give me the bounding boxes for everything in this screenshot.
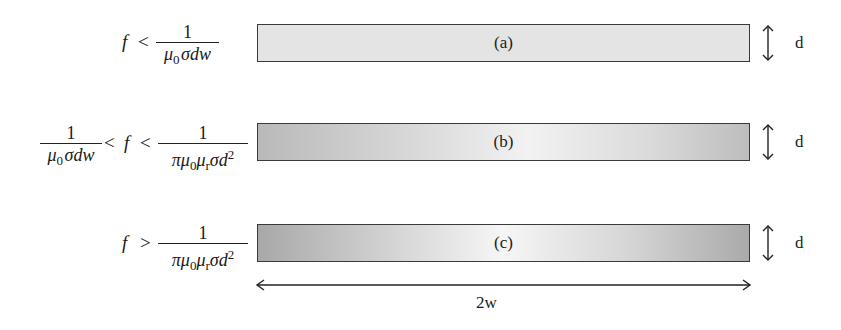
fraction-numerator: 1 bbox=[67, 123, 76, 143]
formula-a-operator: < bbox=[138, 31, 149, 53]
conductor-bar-b: (b) bbox=[257, 123, 750, 161]
thickness-double-arrow-icon bbox=[758, 24, 778, 62]
bar-c-label: (c) bbox=[258, 233, 749, 253]
conductor-bar-c: (c) bbox=[257, 224, 750, 262]
formula-b-operator-1: < bbox=[104, 132, 115, 154]
width-label: 2w bbox=[476, 293, 497, 313]
formula-b-upper-fraction: 1 πμ0μrσd2 bbox=[158, 123, 248, 177]
formula-c-operator: > bbox=[140, 232, 151, 254]
conductor-bar-a: (a) bbox=[257, 24, 750, 62]
thickness-label-b: d bbox=[795, 132, 804, 152]
fraction-denominator: πμ0μrσd2 bbox=[172, 144, 234, 177]
formula-a-fraction: 1 μ0 σdw bbox=[156, 22, 219, 71]
formula-c-fraction: 1 πμ0μrσd2 bbox=[158, 223, 248, 277]
fraction-numerator: 1 bbox=[199, 123, 208, 143]
thickness-label-c: d bbox=[795, 233, 804, 253]
bar-b-label: (b) bbox=[258, 132, 749, 152]
width-double-arrow-icon bbox=[255, 277, 752, 293]
formula-b-lower-fraction: 1 μ0 σdw bbox=[40, 123, 102, 172]
fraction-numerator: 1 bbox=[183, 22, 192, 42]
thickness-label-a: d bbox=[795, 33, 804, 53]
thickness-double-arrow-icon bbox=[758, 224, 778, 262]
fraction-numerator: 1 bbox=[199, 223, 208, 243]
fraction-denominator: μ0 σdw bbox=[164, 43, 211, 71]
formula-b-variable: f bbox=[124, 132, 129, 154]
formula-a-variable: f bbox=[122, 31, 127, 53]
thickness-double-arrow-icon bbox=[758, 123, 778, 161]
formula-b-operator-2: < bbox=[140, 132, 151, 154]
formula-c-variable: f bbox=[122, 232, 127, 254]
fraction-denominator: μ0 σdw bbox=[48, 144, 95, 172]
fraction-denominator: πμ0μrσd2 bbox=[172, 244, 234, 277]
bar-a-label: (a) bbox=[258, 33, 749, 53]
